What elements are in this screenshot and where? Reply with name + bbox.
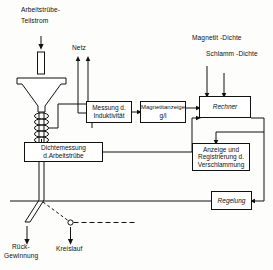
- dichtemessung-to-rechner: [103, 118, 199, 152]
- box-dichtemessung-line1: Dichtemessung: [41, 144, 86, 152]
- box-regelung[interactable]: Regelung: [211, 191, 252, 210]
- dichte-leader-lines: [207, 66, 224, 78]
- box-dichtemessung[interactable]: Dichtemessung d.Arbeitstrübe: [24, 142, 103, 162]
- box-magnetitanzeige-line1: Magnetitanzeige: [141, 104, 185, 112]
- recovery-label-line1: Rück-: [12, 243, 30, 251]
- rechner-to-anzeige: [216, 118, 264, 143]
- magnetit-dichte-label: Magnetit -Dichte: [192, 34, 242, 42]
- feed-tube: [38, 52, 45, 74]
- box-rechner[interactable]: Rechner: [199, 96, 251, 118]
- box-anzeige-line1: Anzeige und: [203, 146, 239, 154]
- funnel-icon: [17, 78, 66, 112]
- box-rechner-line1: Rechner: [213, 103, 238, 111]
- box-dichtemessung-line2: d.Arbeitstrübe: [43, 152, 83, 160]
- circuit-label: Kreislauf: [56, 245, 83, 253]
- box-anzeige-line2: Registrierung d.: [198, 153, 244, 161]
- box-anzeige-registrierung[interactable]: Anzeige und Registrierung d. Verschlammu…: [192, 143, 250, 171]
- box-induktivitaet-line2: Induktivität: [93, 112, 124, 120]
- rechner-to-regelung: [252, 132, 264, 201]
- box-anzeige-line3: Verschlammung: [198, 161, 245, 169]
- inflow-label-line1: Arbeitstrübe-: [21, 6, 60, 14]
- schlamm-dichte-label: Schlamm -Dichte: [206, 50, 258, 58]
- valve-junction-icon: [25, 200, 135, 225]
- mains-arrows: [78, 58, 88, 73]
- box-magnetitanzeige[interactable]: Magnetitanzeige g/l: [140, 101, 186, 123]
- box-magnetitanzeige-line2: g/l: [160, 112, 167, 120]
- box-induktivitaet-line1: Messung d.: [92, 104, 126, 112]
- box-regelung-line1: Regelung: [218, 197, 246, 205]
- recovery-label-line2: Gewinnung: [4, 252, 38, 260]
- coil-to-induktivitaet-line: [49, 104, 87, 128]
- inflow-label-line2: Teilstrom: [21, 17, 48, 25]
- box-messung-induktivitaet[interactable]: Messung d. Induktivität: [86, 101, 132, 123]
- mains-label: Netz: [72, 44, 86, 52]
- diagram-canvas: Arbeitstrübe- Teilstrom Netz Magnetit -D…: [0, 0, 273, 270]
